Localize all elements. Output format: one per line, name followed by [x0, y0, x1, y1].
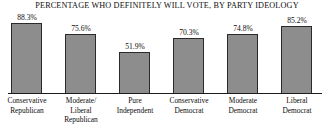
bar-group: 85.2%	[270, 14, 324, 94]
category-label-line: Conservative	[0, 96, 56, 106]
bar-rect[interactable]	[173, 38, 204, 94]
category-axis-labels: ConservativeRepublican Moderate/LiberalR…	[0, 96, 334, 135]
bar-group: 75.6%	[54, 14, 108, 94]
bar-value-label: 74.8%	[216, 24, 270, 33]
bar-rect[interactable]	[227, 34, 258, 94]
bar-rect[interactable]	[65, 34, 96, 94]
category-label-line: Pure	[106, 96, 164, 106]
bar-value-label: 75.6%	[54, 24, 108, 33]
bar-rect[interactable]	[11, 23, 42, 94]
bar-value-label: 70.3%	[162, 28, 216, 37]
category-label-line: Democrat	[214, 106, 272, 116]
bar-value-label: 85.2%	[270, 16, 324, 25]
category-label-line: Liberal	[52, 106, 110, 116]
category-label-line: Independent	[106, 106, 164, 116]
category-label: ConservativeRepublican	[0, 96, 56, 115]
bar-value-label: 51.9%	[108, 42, 162, 51]
category-label-line: Conservative	[160, 96, 218, 106]
bar-group: 51.9%	[108, 14, 162, 94]
bar-group: 88.3%	[0, 14, 54, 94]
category-label: Moderate/LiberalRepublican	[52, 96, 110, 125]
bar-rect[interactable]	[119, 52, 150, 94]
category-label: ConservativeDemocrat	[160, 96, 218, 115]
chart-title: PERCENTAGE WHO DEFINITELY WILL VOTE, BY …	[0, 1, 334, 11]
category-label-line: Liberal	[268, 96, 326, 106]
x-axis-baseline	[8, 93, 322, 94]
bar-group: 74.8%	[216, 14, 270, 94]
category-label-line: Democrat	[268, 106, 326, 116]
category-label-line: Moderate/	[52, 96, 110, 106]
category-label-line: Republican	[52, 115, 110, 125]
plot-area: 88.3% 75.6% 51.9% 70.3% 74.8% 85.2%	[0, 14, 334, 94]
bar-rect[interactable]	[281, 26, 312, 94]
bar-chart-figure: PERCENTAGE WHO DEFINITELY WILL VOTE, BY …	[0, 0, 334, 135]
bar-group: 70.3%	[162, 14, 216, 94]
bar-value-label: 88.3%	[0, 13, 54, 22]
category-label: LiberalDemocrat	[268, 96, 326, 115]
category-label: ModerateDemocrat	[214, 96, 272, 115]
category-label: PureIndependent	[106, 96, 164, 115]
category-label-line: Republican	[0, 106, 56, 116]
category-label-line: Moderate	[214, 96, 272, 106]
category-label-line: Democrat	[160, 106, 218, 116]
